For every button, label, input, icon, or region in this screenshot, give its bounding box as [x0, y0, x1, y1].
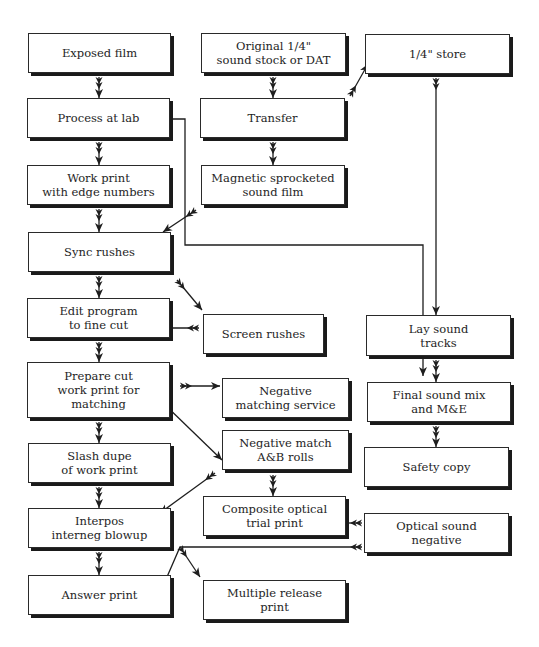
- node-original-sound[interactable]: Original 1/4" sound stock or DAT: [201, 33, 346, 73]
- node-label: Exposed film: [62, 46, 137, 60]
- node-label: 1/4" store: [409, 47, 466, 61]
- connector-final-mix-to-safety-copy: [432, 426, 440, 447]
- node-optical-sound-neg[interactable]: Optical sound negative: [364, 513, 509, 553]
- node-neg-match-ab[interactable]: Negative match A&B rolls: [222, 430, 349, 470]
- node-lay-sound[interactable]: Lay sound tracks: [366, 315, 511, 356]
- node-work-print[interactable]: Work print with edge numbers: [27, 165, 170, 205]
- node-label: Lay sound tracks: [409, 322, 469, 350]
- connector-original-sound-to-transfer: [269, 77, 277, 98]
- node-label: Magnetic sprocketed sound film: [211, 171, 334, 199]
- connector-neg-match-ab-to-composite: [269, 475, 277, 496]
- node-edit-program[interactable]: Edit program to fine cut: [27, 298, 170, 338]
- node-sync-rushes[interactable]: Sync rushes: [28, 232, 171, 272]
- node-label: Multiple release print: [227, 586, 322, 614]
- connector-optical-sound-neg-to-multiple-release: [177, 545, 200, 577]
- node-composite[interactable]: Composite optical trial print: [203, 496, 346, 536]
- connector-lay-sound-to-final-mix: [432, 360, 440, 382]
- node-neg-matching-service[interactable]: Negative matching service: [222, 378, 349, 418]
- node-exposed-film[interactable]: Exposed film: [28, 33, 171, 73]
- arrowhead-icon: [192, 567, 200, 577]
- node-multiple-release[interactable]: Multiple release print: [203, 580, 346, 620]
- node-label: Negative match A&B rolls: [239, 436, 332, 464]
- node-label: Optical sound negative: [396, 519, 477, 547]
- flowchart: Exposed filmOriginal 1/4" sound stock or…: [0, 0, 539, 647]
- connector-prepare-cut-to-slash-dupe: [95, 422, 103, 443]
- connector-sync-rushes-to-screen-rushes: [174, 278, 202, 310]
- connector-interpos-to-answer-print: [95, 552, 103, 575]
- node-label: Final sound mix and M&E: [393, 388, 486, 416]
- node-screen-rushes[interactable]: Screen rushes: [203, 314, 324, 354]
- node-label: Slash dupe of work print: [61, 449, 137, 477]
- node-final-mix[interactable]: Final sound mix and M&E: [367, 382, 511, 422]
- node-label: Edit program to fine cut: [59, 304, 137, 332]
- node-label: Original 1/4" sound stock or DAT: [217, 39, 331, 67]
- connector-prepare-cut-to-neg-matching-service: [180, 382, 220, 390]
- arrow-feather-icon: [347, 86, 356, 98]
- node-label: Transfer: [248, 111, 298, 125]
- node-quarter-store[interactable]: 1/4" store: [365, 34, 510, 74]
- arrow-feather-icon: [186, 207, 198, 217]
- connector-transfer-to-magnetic-film: [269, 142, 277, 165]
- arrowhead-icon: [163, 224, 173, 232]
- node-transfer[interactable]: Transfer: [200, 98, 345, 138]
- node-slash-dupe[interactable]: Slash dupe of work print: [28, 443, 171, 483]
- node-interpos[interactable]: Interpos interneg blowup: [28, 508, 171, 548]
- arrow-feather-icon: [205, 470, 217, 480]
- node-label: Negative matching service: [236, 384, 336, 412]
- node-magnetic-film[interactable]: Magnetic sprocketed sound film: [201, 165, 345, 205]
- node-label: Sync rushes: [64, 245, 135, 259]
- connector-slash-dupe-to-interpos: [95, 487, 103, 508]
- arrow-feather-icon: [174, 278, 184, 289]
- connector-exposed-film-to-process-at-lab: [95, 77, 103, 98]
- node-prepare-cut[interactable]: Prepare cut work print for matching: [27, 362, 170, 418]
- node-answer-print[interactable]: Answer print: [28, 575, 171, 615]
- node-label: Prepare cut work print for matching: [58, 369, 140, 411]
- node-label: Composite optical trial print: [222, 502, 327, 530]
- connector-work-print-to-sync-rushes: [95, 209, 103, 232]
- node-label: Work print with edge numbers: [42, 171, 154, 199]
- node-process-at-lab[interactable]: Process at lab: [27, 98, 170, 138]
- connector-magnetic-film-to-sync-rushes: [163, 207, 198, 232]
- node-label: Answer print: [62, 588, 138, 602]
- connector-sync-rushes-to-edit-program: [95, 276, 103, 298]
- node-label: Screen rushes: [222, 327, 305, 341]
- connector-process-at-lab-to-work-print: [95, 142, 103, 165]
- connector-quarter-store-to-lay-sound: [432, 78, 440, 315]
- node-label: Safety copy: [403, 460, 471, 474]
- node-safety-copy[interactable]: Safety copy: [364, 447, 509, 487]
- node-label: Interpos interneg blowup: [52, 514, 148, 542]
- node-label: Process at lab: [58, 111, 140, 125]
- connector-edit-program-to-prepare-cut: [95, 342, 103, 362]
